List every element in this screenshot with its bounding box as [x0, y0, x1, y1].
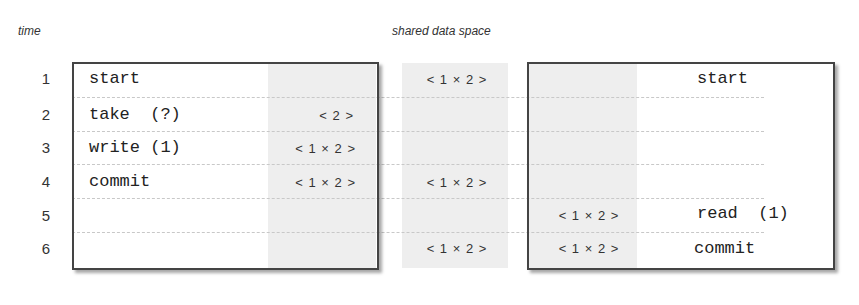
right-local-tuple-row6: < 1 × 2 > — [550, 241, 628, 256]
right-local-tuple-row5: < 1 × 2 > — [550, 208, 628, 223]
left-op-commit: commit — [89, 172, 150, 191]
time-label-1: 1 — [36, 70, 56, 87]
shared-tuple-row1: < 1 × 2 > — [418, 72, 496, 87]
time-label-5: 5 — [36, 207, 56, 224]
right-process-box — [527, 62, 835, 270]
left-op-start: start — [89, 69, 140, 88]
left-process-box — [72, 62, 379, 270]
shared-tuple-row4: < 1 × 2 > — [418, 175, 496, 190]
time-label-2: 2 — [36, 106, 56, 123]
left-local-tuple-row4: < 1 × 2 > — [284, 175, 356, 190]
left-op-write: write (1) — [89, 138, 181, 157]
time-label-6: 6 — [36, 240, 56, 257]
shared-space-column — [402, 63, 508, 268]
left-local-tuple-row3: < 1 × 2 > — [284, 141, 356, 156]
right-op-commit: commit — [694, 239, 755, 258]
left-op-take: take (?) — [89, 105, 181, 124]
left-local-tuple-row2: < 2 > — [314, 108, 354, 123]
time-axis-heading: time — [18, 24, 41, 38]
time-label-3: 3 — [36, 139, 56, 156]
shared-tuple-row6: < 1 × 2 > — [418, 241, 496, 256]
shared-space-heading: shared data space — [392, 24, 491, 38]
time-label-4: 4 — [36, 173, 56, 190]
right-op-read: read (1) — [697, 204, 789, 223]
right-op-start: start — [697, 69, 748, 88]
